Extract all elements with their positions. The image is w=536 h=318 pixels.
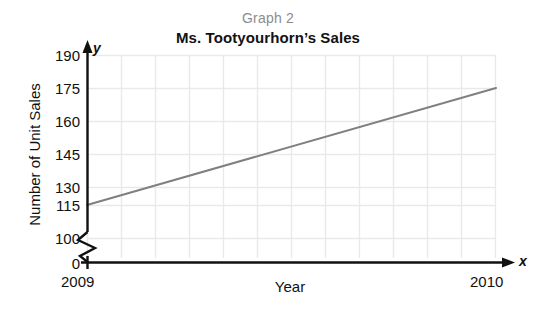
y-tick-label-145: 145	[34, 147, 80, 162]
y-tick-label-100: 100	[34, 231, 80, 246]
x-tick-label-2009: 2009	[61, 274, 94, 289]
chart-page: Graph 2 Ms. Tootyourhorn’s Sales Number …	[0, 0, 536, 318]
y-tick-label-160: 160	[34, 114, 80, 129]
y-axis-letter: y	[93, 40, 101, 56]
y-tick-label-190: 190	[34, 48, 80, 63]
y-tick-label-175: 175	[34, 81, 80, 96]
plot-area	[0, 0, 536, 318]
x-tick-label-2010: 2010	[470, 274, 503, 289]
x-axis-letter: x	[519, 253, 527, 269]
y-tick-label-130: 130	[34, 180, 80, 195]
x-axis	[81, 256, 515, 269]
grid-vertical	[88, 55, 496, 258]
y-tick-label-115: 115	[34, 198, 80, 213]
origin-label: 0	[34, 256, 80, 271]
